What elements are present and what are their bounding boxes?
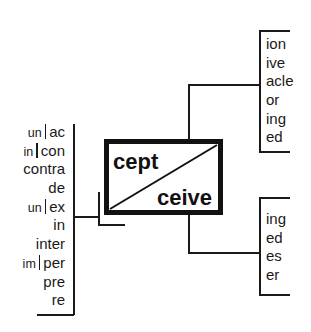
prefix-bracket-bottom: [37, 314, 74, 316]
connector-tick-vertical: [98, 192, 100, 226]
prefix-item: incon: [0, 142, 65, 161]
prefix-bracket-vertical: [73, 124, 75, 315]
suffix-item: or: [266, 91, 311, 110]
prefix-connector: [73, 216, 98, 218]
separator-bar: [45, 124, 47, 139]
prefix-item: in: [0, 216, 65, 235]
prefix-text: in: [53, 216, 65, 233]
separator-bar: [45, 199, 47, 214]
cept-suffix-list: ion ive acle or ing ed: [266, 35, 311, 147]
prefix-text: de: [48, 179, 65, 196]
ceive-bracket-top: [259, 197, 290, 199]
prefix-text: re: [52, 291, 65, 308]
suffix-item: es: [266, 247, 311, 266]
prefix-item: pre: [0, 273, 65, 292]
prefix-text: ac: [49, 123, 65, 140]
root-cept: cept: [113, 151, 158, 173]
prefix-text: inter: [36, 235, 65, 252]
cept-connector-vertical: [188, 84, 190, 140]
suffix-item: ing: [266, 210, 311, 229]
negation-prefix: in: [24, 145, 34, 159]
suffix-item: ing: [266, 110, 311, 129]
negation-prefix: un: [28, 126, 42, 140]
prefix-item: inter: [0, 235, 65, 254]
cept-connector-horizontal: [188, 84, 260, 86]
prefix-item: re: [0, 291, 65, 310]
separator-bar: [36, 143, 38, 158]
cept-bracket-vertical: [259, 30, 261, 152]
prefix-text: contra: [23, 160, 65, 177]
prefix-item: unex: [0, 198, 65, 217]
prefix-list: unac incon contra de unex in inter imper…: [0, 123, 65, 310]
suffix-item: ed: [266, 128, 311, 147]
negation-prefix: un: [28, 201, 42, 215]
ceive-suffix-list: ing ed es er: [266, 210, 311, 285]
suffix-item: ive: [266, 54, 311, 73]
suffix-item: ion: [266, 35, 311, 54]
prefix-text: per: [43, 254, 65, 271]
prefix-text: con: [41, 142, 65, 159]
suffix-item: acle: [266, 72, 311, 91]
suffix-item: ed: [266, 229, 311, 248]
ceive-bracket-bottom: [259, 294, 290, 296]
prefix-text: ex: [49, 198, 65, 215]
ceive-bracket-vertical: [259, 197, 261, 295]
root-ceive: ceive: [157, 187, 212, 209]
prefix-text: pre: [43, 273, 65, 290]
suffix-item: er: [266, 266, 311, 285]
ceive-connector-vertical: [188, 214, 190, 253]
negation-prefix: im: [23, 257, 36, 271]
cept-bracket-bottom: [259, 151, 290, 153]
cept-bracket-top: [259, 30, 290, 32]
prefix-item: imper: [0, 254, 65, 273]
prefix-item: unac: [0, 123, 65, 142]
prefix-item: de: [0, 179, 65, 198]
root-box: cept ceive: [104, 139, 223, 215]
separator-bar: [39, 255, 41, 270]
prefix-item: contra: [0, 160, 65, 179]
connector-tick-horizontal: [98, 224, 125, 226]
ceive-connector-horizontal: [188, 252, 260, 254]
